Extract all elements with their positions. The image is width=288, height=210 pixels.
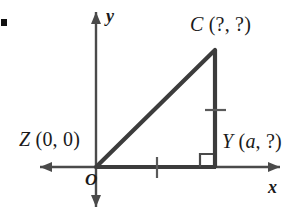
x-axis-arrow-left-icon (40, 162, 52, 172)
vertex-label-c-coords: (?, ?) (209, 13, 251, 35)
vertex-label-y: Y (a, ?) (222, 131, 282, 151)
triangle-side-zc-hypotenuse (96, 50, 215, 167)
vertex-label-z-coords: (0, 0) (36, 128, 81, 150)
triangle-zyc (96, 50, 216, 168)
y-axis-arrow-up-icon (91, 12, 101, 24)
vertex-label-y-name: Y (222, 130, 233, 152)
x-axis-label: x (268, 178, 277, 196)
vertex-label-y-coords: (a, ?) (239, 130, 282, 152)
origin-label: O (85, 171, 97, 188)
vertex-label-y-coords-suffix: , ?) (256, 130, 282, 152)
coordinate-geometry-figure: C (?, ?) Z (0, 0) Y (a, ?) x y O (0, 0, 288, 210)
vertex-label-z-name: Z (19, 128, 30, 150)
vertex-label-z: Z (0, 0) (19, 129, 80, 149)
vertex-label-c: C (?, ?) (190, 14, 251, 34)
y-axis-arrow-down-icon (91, 195, 101, 207)
x-axis-arrow-right-icon (268, 162, 280, 172)
y-axis-label: y (106, 7, 114, 25)
vertex-label-c-name: C (190, 13, 204, 35)
vertex-label-y-coords-variable: a (245, 130, 255, 152)
